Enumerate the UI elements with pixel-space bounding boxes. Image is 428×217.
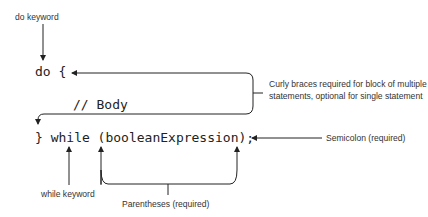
do-keyword-label: do keyword bbox=[15, 11, 59, 22]
code-line-while: } while (booleanExpression); bbox=[35, 130, 254, 145]
code-line-body: // Body bbox=[73, 97, 128, 112]
parentheses-label: Parentheses (required) bbox=[122, 198, 209, 209]
annotation-arrows bbox=[0, 0, 428, 217]
code-line-do: do { bbox=[35, 64, 66, 79]
while-keyword-label: while keyword bbox=[41, 188, 95, 199]
semicolon-label: Semicolon (required) bbox=[326, 132, 405, 143]
curly-braces-label: Curly braces required for block of multi… bbox=[269, 78, 428, 102]
